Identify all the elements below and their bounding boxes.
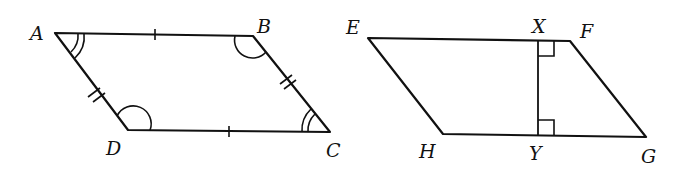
angle-arc-a-1	[71, 33, 78, 52]
label-f: F	[579, 20, 594, 42]
label-a: A	[28, 22, 44, 44]
parallelogram-abcd	[55, 29, 330, 137]
right-angle-x	[538, 41, 554, 56]
parallelogram-abcd-outline	[55, 33, 330, 132]
label-y: Y	[529, 142, 544, 164]
angle-arc-c-1	[308, 114, 315, 132]
label-x: X	[530, 15, 547, 37]
label-h: H	[418, 140, 436, 162]
label-d: D	[105, 137, 121, 159]
label-e: E	[345, 16, 360, 38]
geometry-diagram: A B C D E F G H X Y	[0, 0, 687, 170]
tick-ad-1	[88, 88, 100, 97]
angle-arc-d	[117, 106, 151, 130]
label-g: G	[641, 145, 656, 167]
parallelogram-efgh-outline	[368, 38, 646, 137]
label-c: C	[326, 139, 341, 161]
parallelogram-efgh	[368, 38, 646, 137]
label-b: B	[256, 15, 271, 37]
right-angle-y	[538, 120, 554, 135]
